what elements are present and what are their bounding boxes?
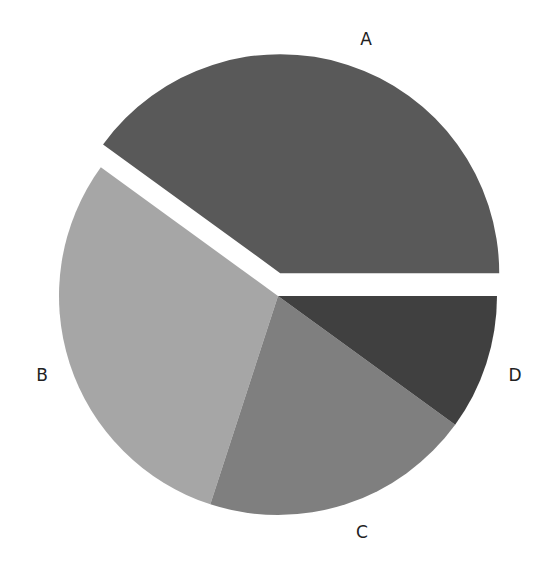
pie-chart-canvas: A B C D — [0, 0, 546, 573]
slice-label-c: C — [356, 522, 368, 542]
slice-label-b: B — [36, 365, 48, 385]
slice-label-a: A — [360, 29, 372, 49]
pie-slices — [59, 54, 499, 515]
pie-chart: A B C D — [0, 0, 546, 573]
slice-label-d: D — [508, 365, 521, 385]
